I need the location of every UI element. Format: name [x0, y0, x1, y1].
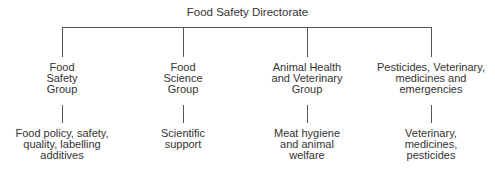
group-node-3: Animal Healthand VeterinaryGroup	[247, 62, 367, 95]
group-node-1: FoodSafetyGroup	[2, 62, 122, 95]
group-node-4: Pesticides, Veterinary,medicines andemer…	[371, 62, 491, 95]
sub-node-2: Scientificsupport	[123, 128, 243, 150]
connector-sub-1	[62, 105, 63, 123]
connector-group-4	[431, 27, 432, 57]
connector-sub-2	[183, 105, 184, 123]
connector-horizontal	[62, 27, 432, 28]
sub-node-4: Veterinary,medicines,pesticides	[371, 128, 491, 161]
connector-group-1	[62, 27, 63, 57]
connector-group-3	[307, 27, 308, 57]
sub-node-1: Food policy, safety,quality, labellingad…	[2, 128, 122, 161]
connector-sub-3	[307, 105, 308, 123]
root-node: Food Safety Directorate	[0, 5, 495, 19]
sub-node-3: Meat hygieneand animalwelfare	[247, 128, 367, 161]
group-node-2: FoodScienceGroup	[123, 62, 243, 95]
connector-group-2	[183, 27, 184, 57]
connector-sub-4	[431, 105, 432, 123]
